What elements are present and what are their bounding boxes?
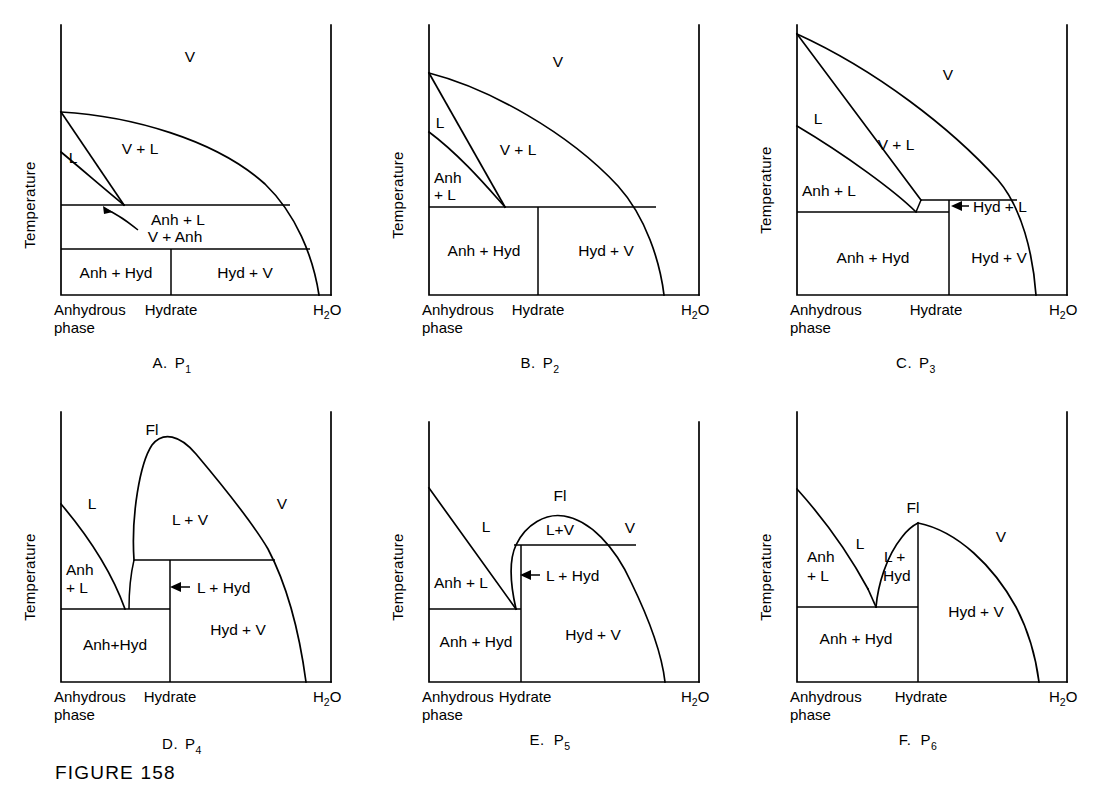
region-label-anh-plus-l: Anh + L: [151, 211, 205, 228]
region-label-v: V: [625, 519, 636, 536]
region-label-l: L: [856, 535, 865, 552]
leader-arrowhead-hyd-l: [951, 201, 962, 211]
region-label-hyd-plus-v: Hyd + V: [948, 603, 1004, 620]
panel-caption-e: E.P5: [529, 731, 570, 752]
region-label-l-plus-hyd: L + Hyd: [546, 567, 599, 584]
region-label-anh-plus-l: Anh + L: [802, 182, 856, 199]
x-label-hydrate: Hydrate: [895, 688, 948, 705]
region-label-l-plus-v: L + V: [172, 511, 209, 528]
region-label-l: L: [482, 518, 491, 535]
panel-f-p6: Fl L V Anh + L L + Hyd Anh + Hyd Hyd + V…: [736, 397, 1104, 793]
region-label-v-plus-l: V + L: [122, 140, 159, 157]
region-label-v: V: [943, 66, 954, 83]
y-axis-label: Temperature: [389, 151, 406, 239]
x-label-anhydrous: Anhydrous: [54, 301, 126, 318]
panel-caption-b: B.P2: [520, 354, 559, 375]
x-label-phase: phase: [422, 706, 463, 723]
region-label-anh-plus-hyd: Anh + Hyd: [837, 249, 910, 266]
panel-a-p1: V V + L L Anh + L V + Anh Anh + Hyd Hyd …: [0, 0, 368, 396]
x-label-phase: phase: [54, 706, 95, 723]
x-label-phase: phase: [790, 319, 831, 336]
curve-vapour-boundary: [429, 73, 664, 295]
y-axis-label: Temperature: [757, 146, 774, 234]
x-label-anhydrous: Anhydrous: [790, 301, 862, 318]
panel-b-p2: V V + L L Anh + L Anh + Hyd Hyd + V Temp…: [368, 0, 736, 396]
curve-lhyd-left-boundary: [876, 523, 918, 607]
x-label-hydrate: Hydrate: [910, 301, 963, 318]
region-label-l-plus-hyd: L + Hyd: [197, 579, 250, 596]
panel-d-p4: Fl L V L + V Anh + L L + Hyd Anh+Hyd Hyd…: [0, 397, 368, 793]
leader-arrowhead-l-hyd: [170, 582, 181, 592]
region-label-anh: Anh: [66, 561, 94, 578]
region-label-l: L: [88, 495, 97, 512]
curve-lhyd-left-boundary: [129, 560, 134, 609]
panel-c-p3: V V + L L Anh + L Hyd + L Anh + Hyd Hyd …: [736, 0, 1104, 396]
x-label-water: H2O: [313, 688, 341, 708]
panel-caption-a: A.P1: [152, 354, 191, 375]
region-label-l: L: [69, 149, 78, 166]
region-label-plus-l: + L: [66, 579, 88, 596]
region-label-v: V: [553, 53, 564, 70]
panel-e-p5: Fl L V L+V Anh + L L + Hyd Anh + Hyd Hyd…: [368, 397, 736, 793]
panel-caption-f: F.P6: [899, 731, 938, 752]
panel-b-diagram: V V + L L Anh + L Anh + Hyd Hyd + V Temp…: [368, 0, 736, 396]
x-label-hydrate: Hydrate: [145, 301, 198, 318]
panel-f-diagram: Fl L V Anh + L L + Hyd Anh + Hyd Hyd + V…: [736, 397, 1104, 793]
region-label-anh: Anh: [807, 548, 835, 565]
panel-e-diagram: Fl L V L+V Anh + L L + Hyd Anh + Hyd Hyd…: [368, 397, 736, 793]
region-label-v: V: [277, 495, 288, 512]
y-axis-label: Temperature: [21, 533, 38, 621]
x-label-phase: phase: [54, 319, 95, 336]
region-label-l-plus-v: L+V: [546, 521, 575, 538]
panel-caption-c: C.P3: [896, 354, 936, 375]
region-label-fl: Fl: [554, 487, 567, 504]
curve-lv-dome: [511, 516, 665, 682]
panel-d-diagram: Fl L V L + V Anh + L L + Hyd Anh+Hyd Hyd…: [0, 397, 368, 793]
region-label-v-plus-l: V + L: [500, 141, 537, 158]
x-label-hydrate: Hydrate: [512, 301, 565, 318]
x-label-hydrate: Hydrate: [144, 688, 197, 705]
region-label-hyd-plus-v: Hyd + V: [578, 242, 634, 259]
x-label-water: H2O: [313, 301, 341, 321]
x-label-water: H2O: [681, 301, 709, 321]
region-label-anh-plus-hyd: Anh + Hyd: [448, 242, 521, 259]
region-label-hyd: Hyd: [883, 567, 911, 584]
region-label-l: L: [814, 110, 823, 127]
region-label-anh-plus-hyd: Anh + Hyd: [80, 264, 153, 281]
x-label-anhydrous: Anhydrous: [422, 301, 494, 318]
region-label-v: V: [996, 528, 1007, 545]
region-label-v: V: [185, 48, 196, 65]
region-label-anh-plus-hyd: Anh + Hyd: [440, 633, 513, 650]
x-label-water: H2O: [1049, 301, 1077, 321]
panel-a-diagram: V V + L L Anh + L V + Anh Anh + Hyd Hyd …: [0, 0, 368, 396]
x-label-water: H2O: [1049, 688, 1077, 708]
y-axis-label: Temperature: [757, 533, 774, 621]
region-label-plus-l: + L: [434, 186, 456, 203]
region-label-fl: Fl: [146, 421, 159, 438]
region-label-plus-l: + L: [807, 567, 829, 584]
x-label-phase: phase: [422, 319, 463, 336]
region-label-hyd-plus-v: Hyd + V: [565, 626, 621, 643]
y-axis-label: Temperature: [21, 161, 38, 249]
panel-caption-d: D.P4: [162, 735, 202, 756]
x-label-anhydrous: Anhydrous: [54, 688, 126, 705]
region-label-l: L: [436, 114, 445, 131]
region-label-v-plus-anh: V + Anh: [148, 228, 203, 245]
region-label-anh-plus-hyd: Anh + Hyd: [820, 630, 893, 647]
y-axis-label: Temperature: [389, 533, 406, 621]
region-label-fl: Fl: [907, 499, 920, 516]
figure-158-root: V V + L L Anh + L V + Anh Anh + Hyd Hyd …: [0, 0, 1118, 793]
figure-caption: FIGURE 158: [55, 762, 176, 784]
region-label-hyd-plus-v: Hyd + V: [217, 264, 273, 281]
panel-c-diagram: V V + L L Anh + L Hyd + L Anh + Hyd Hyd …: [736, 0, 1104, 396]
line-peritectic-to-eutectic: [916, 200, 921, 212]
region-label-l-plus: L +: [884, 548, 905, 565]
line-anh-liquidus-tail: [868, 589, 876, 607]
x-label-anhydrous: Anhydrous: [790, 688, 862, 705]
x-label-anhydrous: Anhydrous: [422, 688, 494, 705]
x-label-water: H2O: [681, 688, 709, 708]
region-label-v-plus-l: V + L: [878, 136, 915, 153]
x-label-phase: phase: [790, 706, 831, 723]
region-label-anh: Anh: [434, 169, 462, 186]
region-label-hyd-plus-v: Hyd + V: [971, 249, 1027, 266]
